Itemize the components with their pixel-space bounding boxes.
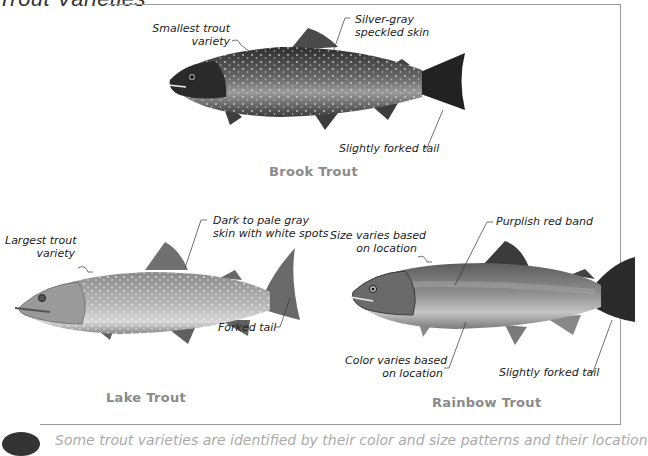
footer-caption: Some trout varieties are identified by t… <box>55 432 648 448</box>
brook-label-skin: Silver-gray speckled skin <box>355 13 429 39</box>
rainbow-label-band: Purplish red band <box>496 215 593 228</box>
label-line: Largest trout <box>5 234 75 247</box>
lake-label-tail: Forked tail <box>218 321 276 334</box>
frame-border-right <box>620 4 621 424</box>
frame-border-bottom <box>40 424 621 425</box>
label-line: skin with white spots <box>213 227 329 240</box>
label-line: variety <box>152 35 230 48</box>
brook-label-tail: Slightly forked tail <box>339 142 439 155</box>
rainbow-trout-name: Rainbow Trout <box>432 395 541 410</box>
lake-trout-name: Lake Trout <box>106 390 186 405</box>
label-line: on location <box>330 242 417 255</box>
label-line: Color varies based <box>345 354 443 367</box>
label-line: speckled skin <box>355 26 429 39</box>
label-line: Size varies based <box>330 229 417 242</box>
label-line: Silver-gray <box>355 13 429 26</box>
rainbow-label-size: Size varies based on location <box>330 229 417 255</box>
brook-label-size: Smallest trout variety <box>152 22 230 48</box>
page-title: Trout Varieties <box>0 0 146 12</box>
label-line: Dark to pale gray <box>213 214 329 227</box>
label-line: variety <box>5 247 75 260</box>
brook-trout-name: Brook Trout <box>269 164 358 179</box>
label-line: on location <box>345 367 443 380</box>
rainbow-label-color: Color varies based on location <box>345 354 443 380</box>
lake-label-skin: Dark to pale gray skin with white spots <box>213 214 329 240</box>
footer-badge-icon <box>2 432 40 456</box>
rainbow-label-tail: Slightly forked tail <box>499 366 599 379</box>
lake-label-size: Largest trout variety <box>5 234 75 260</box>
label-line: Smallest trout <box>152 22 230 35</box>
frame-border-top <box>108 4 621 5</box>
